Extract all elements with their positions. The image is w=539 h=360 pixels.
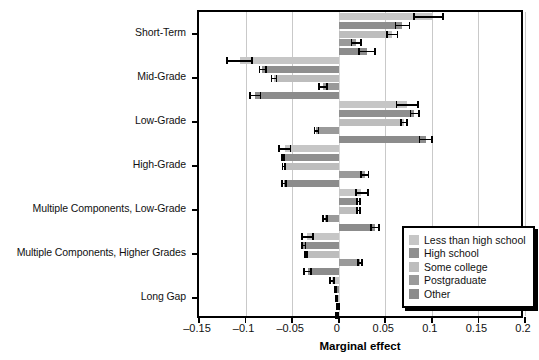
error-bar-cap-low	[419, 136, 421, 143]
error-bar-cap-low	[400, 119, 402, 126]
y-axis-category-label: Multiple Components, Higher Grades	[17, 246, 186, 258]
error-bar	[322, 215, 328, 222]
y-axis-category-label: Multiple Components, Low-Grade	[33, 202, 186, 214]
error-bar-cap-low	[370, 224, 372, 231]
bar	[262, 66, 338, 73]
error-bar-cap-high	[442, 13, 444, 20]
error-bar	[335, 312, 339, 319]
error-bar	[301, 233, 313, 240]
bar	[339, 136, 427, 143]
error-bar-cap-high	[333, 277, 335, 284]
x-axis-tick-label: –0.1	[233, 322, 254, 334]
error-bar	[335, 295, 338, 302]
error-bar	[396, 101, 419, 108]
error-bar-cap-low	[396, 101, 398, 108]
error-bar-line	[413, 16, 444, 18]
error-bar	[356, 198, 361, 205]
legend-item: Less than high school	[409, 233, 526, 247]
error-bar-cap-low	[226, 57, 228, 64]
chart-root: Short-TermMid-GradeLow-GradeHigh-GradeMu…	[0, 0, 539, 360]
error-bar-cap-low	[249, 92, 251, 99]
bar	[339, 110, 414, 117]
error-bar-cap-high	[374, 48, 376, 55]
bar	[339, 22, 402, 29]
error-bar	[351, 39, 362, 46]
error-bar	[282, 163, 286, 170]
bar	[308, 268, 339, 275]
error-bar-cap-low	[303, 268, 305, 275]
error-bar-cap-high	[359, 198, 361, 205]
error-bar-cap-high	[265, 66, 267, 73]
y-axis-category-label: Short-Term	[135, 26, 186, 38]
error-bar-cap-high	[361, 259, 363, 266]
legend: Less than high schoolHigh schoolSome col…	[402, 226, 535, 308]
legend-label: Less than high school	[424, 234, 526, 246]
error-bar-cap-low	[314, 127, 316, 134]
error-bar-cap-high	[260, 92, 262, 99]
legend-label: Some college	[424, 261, 488, 273]
error-bar	[386, 31, 398, 38]
error-bar	[419, 136, 433, 143]
error-bar-cap-high	[360, 39, 362, 46]
error-bar-cap-high	[338, 303, 340, 310]
x-axis-title: Marginal effect	[197, 340, 523, 352]
error-bar-cap-high	[290, 145, 292, 152]
error-bar-cap-low	[318, 83, 320, 90]
error-bar-cap-low	[271, 75, 273, 82]
y-axis-tick	[192, 297, 198, 299]
bar	[339, 31, 392, 38]
legend-label: High school	[424, 247, 479, 259]
error-bar	[395, 22, 411, 29]
y-axis-tick	[192, 253, 198, 255]
error-bar-cap-low	[360, 171, 362, 178]
error-bar	[334, 286, 337, 293]
error-bar-cap-low	[395, 22, 397, 29]
error-bar-cap-high	[367, 189, 369, 196]
error-bar-cap-high	[283, 154, 285, 161]
error-bar-cap-high	[326, 83, 328, 90]
error-bar	[356, 207, 361, 214]
error-bar-cap-low	[358, 48, 360, 55]
error-bar-cap-low	[357, 259, 359, 266]
legend-label: Postgraduate	[424, 274, 486, 286]
error-bar-cap-high	[368, 171, 370, 178]
error-bar-cap-high	[378, 224, 380, 231]
error-bar-cap-high	[306, 251, 308, 258]
bar	[303, 242, 338, 249]
error-bar-cap-high	[336, 295, 338, 302]
bar	[339, 119, 404, 126]
error-bar-line	[226, 60, 253, 62]
error-bar-cap-high	[276, 75, 278, 82]
legend-item: Some college	[409, 260, 526, 274]
error-bar	[314, 127, 320, 134]
bar	[339, 207, 359, 214]
bar	[285, 145, 339, 152]
x-axis-tick-label: –0.15	[183, 322, 211, 334]
error-bar-cap-low	[278, 145, 280, 152]
error-bar	[271, 75, 278, 82]
error-bar	[249, 92, 261, 99]
error-bar	[226, 57, 253, 64]
error-bar-cap-high	[406, 119, 408, 126]
error-bar-line	[396, 104, 419, 106]
bar	[283, 154, 339, 161]
error-bar	[357, 259, 363, 266]
legend-swatch	[409, 235, 419, 245]
x-axis-tick-labels: –0.15–0.1–0.0500.050.10.150.2	[197, 322, 523, 338]
error-bar-cap-high	[312, 233, 314, 240]
bar	[306, 251, 339, 258]
error-bar-cap-high	[409, 22, 411, 29]
y-axis-tick	[192, 209, 198, 211]
error-bar-cap-high	[284, 163, 286, 170]
x-axis-tick-label: –0.05	[276, 322, 304, 334]
error-bar	[304, 251, 308, 258]
error-bar	[370, 224, 379, 231]
error-bar	[336, 303, 340, 310]
legend-swatch	[409, 275, 419, 285]
error-bar-line	[358, 51, 376, 53]
error-bar	[329, 277, 335, 284]
error-bar-cap-low	[386, 31, 388, 38]
error-bar-cap-high	[397, 31, 399, 38]
error-bar	[358, 48, 376, 55]
x-axis-tick-label: 0.15	[466, 322, 487, 334]
